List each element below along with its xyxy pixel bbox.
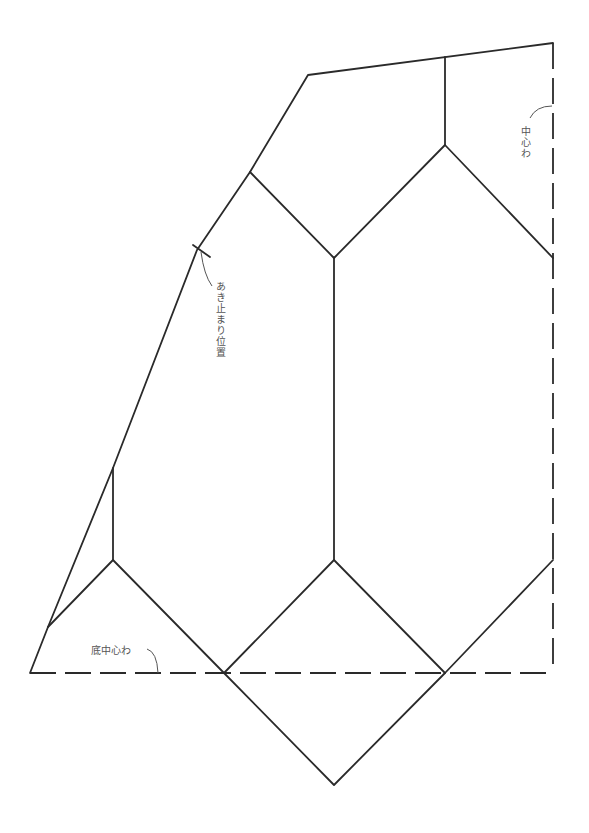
panel-line [250,145,553,258]
bottom-center-fold-leader [147,649,158,673]
bottom-panel [224,673,445,785]
center-fold-leader [530,106,552,118]
outer-outline [30,43,553,673]
panel-line [48,560,224,673]
bottom-center-fold-label: 底中心わ [91,645,131,657]
pattern-drawing [0,0,589,833]
opening-stop-label: あき止まり位置 [213,281,225,358]
panel-line [224,560,553,673]
center-fold-label: 中心わ [518,126,530,159]
